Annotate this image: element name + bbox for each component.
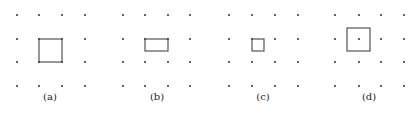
grid-dot [38,14,40,16]
grid-dot [144,14,146,16]
grid-dot [297,61,299,63]
grid-dot [167,61,169,63]
grid-dot [274,38,276,40]
grid-dot [16,61,18,63]
grid-dot [297,85,299,87]
panel-c-label: (c) [248,91,278,102]
grid-dot [189,85,191,87]
grid-dot [297,14,299,16]
grid-dot [84,38,86,40]
grid-dot [358,14,360,16]
grid-dot [16,85,18,87]
grid-dot [358,38,360,40]
grid-dot [380,61,382,63]
panel-c-square [252,39,264,51]
grid-dot [274,85,276,87]
panel-a-label: (a) [35,91,65,102]
grid-dot [144,85,146,87]
grid-dot [61,14,63,16]
grid-dot [358,85,360,87]
grid-dot [228,14,230,16]
grid-dot [84,14,86,16]
grid-dot [61,85,63,87]
grid-dot [122,38,124,40]
grid-dot [251,61,253,63]
panel-b-rectangle [145,39,168,51]
grid-dot [122,85,124,87]
grid-dot [380,38,382,40]
grid-dot [84,61,86,63]
grid-dot [16,38,18,40]
grid-dot [167,85,169,87]
grid-dot [274,14,276,16]
grid-dot [403,61,405,63]
grid-dot [251,85,253,87]
grid-dot [334,85,336,87]
grid-dot [403,85,405,87]
panel-d-label: (d) [354,91,384,102]
panel-d [334,14,405,87]
grid-dot [380,85,382,87]
panel-c [228,14,299,87]
panel-a [16,14,86,87]
panel-b [122,14,191,87]
grid-dot [334,14,336,16]
panel-b-label: (b) [142,91,172,102]
grid-dot [189,61,191,63]
grid-dot [403,14,405,16]
grid-dot [334,38,336,40]
grid-dot [228,38,230,40]
grid-dot [380,14,382,16]
grid-dot [167,14,169,16]
grid-dot [228,61,230,63]
grid-dot [228,85,230,87]
grid-dot [38,85,40,87]
grid-dot [274,61,276,63]
grid-dot [84,85,86,87]
grid-dot [122,61,124,63]
grid-dot [189,38,191,40]
grid-dot [122,14,124,16]
panel-a-square [39,39,62,62]
grid-dot [358,61,360,63]
grid-dot [334,61,336,63]
grid-dot [403,38,405,40]
grid-dot [251,14,253,16]
grid-dot [189,14,191,16]
grid-dot [16,14,18,16]
grid-dot [297,38,299,40]
grid-dot [144,61,146,63]
